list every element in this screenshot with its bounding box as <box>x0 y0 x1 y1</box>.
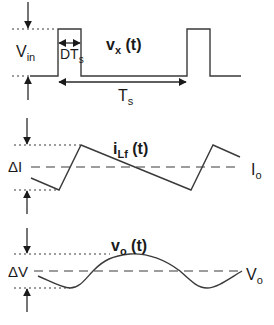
panel-vx: Vin DTs vx (t) Ts <box>12 2 241 107</box>
delta-i-label: ΔI <box>8 158 22 175</box>
waveform-diagram: Vin DTs vx (t) Ts ΔI iLf (t) Io ΔV vo (t… <box>0 0 274 325</box>
panel-ilf: ΔI iLf (t) Io <box>8 118 262 214</box>
ilf-signal-label: iLf (t) <box>113 140 148 160</box>
vx-signal-label: vx (t) <box>106 36 141 56</box>
io-label: Io <box>251 161 262 181</box>
vin-label: Vin <box>16 43 35 63</box>
vo-label: Vo <box>246 266 263 286</box>
panel-vo: ΔV vo (t) Vo <box>8 228 263 312</box>
delta-v-label: ΔV <box>8 263 28 280</box>
duty-label: DTs <box>60 46 84 65</box>
period-label: Ts <box>118 87 134 107</box>
